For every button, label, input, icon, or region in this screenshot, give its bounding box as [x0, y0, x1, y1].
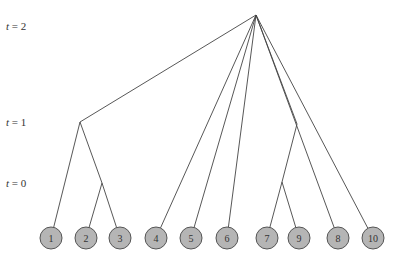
node-label: 4 — [154, 233, 159, 244]
edge-j_right-j_79 — [282, 124, 297, 182]
leaf-node-8: 8 — [327, 227, 349, 249]
edge-j_79-9 — [282, 182, 296, 227]
node-label: 8 — [336, 233, 341, 244]
time-label-t1: t = 1 — [6, 116, 26, 128]
tree-edges — [54, 15, 368, 228]
node-label: 6 — [225, 233, 230, 244]
node-label: 10 — [368, 233, 378, 244]
leaf-node-3: 3 — [109, 227, 131, 249]
node-label: 1 — [49, 233, 54, 244]
leaf-node-6: 6 — [216, 227, 238, 249]
leaf-node-1: 1 — [40, 227, 62, 249]
leaf-node-9: 9 — [288, 227, 310, 249]
leaf-node-5: 5 — [180, 227, 202, 249]
time-label-t2: t = 2 — [6, 20, 26, 32]
edge-root-10 — [256, 15, 368, 228]
time-value: = 2 — [9, 20, 26, 32]
node-label: 5 — [189, 233, 194, 244]
node-label: 2 — [84, 233, 89, 244]
node-label: 3 — [118, 233, 123, 244]
node-label: 7 — [265, 233, 270, 244]
edge-root-4 — [161, 15, 256, 228]
edge-j_79-7 — [270, 182, 282, 227]
leaf-node-2: 2 — [75, 227, 97, 249]
edge-j_left-1 — [54, 122, 80, 227]
edge-j_23-3 — [102, 183, 117, 228]
time-label-t0: t = 0 — [6, 177, 26, 189]
leaf-node-10: 10 — [362, 227, 384, 249]
leaf-nodes: 12345679810 — [40, 227, 384, 249]
node-label: 9 — [297, 233, 302, 244]
edge-j_left-j_23 — [80, 122, 102, 183]
time-value: = 0 — [9, 177, 26, 189]
edge-j_23-2 — [89, 183, 102, 227]
time-value: = 1 — [9, 116, 26, 128]
tree-canvas: 12345679810 — [0, 0, 396, 262]
edge-root-8 — [256, 15, 334, 228]
leaf-node-4: 4 — [145, 227, 167, 249]
leaf-node-7: 7 — [256, 227, 278, 249]
